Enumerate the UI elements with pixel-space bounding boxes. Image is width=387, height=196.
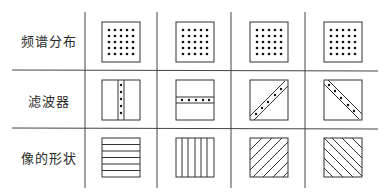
row-divider-1 (12, 70, 378, 71)
filter-cells (102, 79, 363, 121)
spectrum-dots (108, 29, 357, 56)
spatial-filtering-table: 频谱分布 滤波器 像的形状 (0, 0, 387, 196)
row-divider-2 (12, 128, 378, 129)
filter-box-4 (324, 80, 362, 120)
table-graphics (0, 0, 387, 196)
filter-dots (120, 84, 355, 115)
image-shape-cells (102, 138, 362, 177)
spectrum-cells (102, 22, 362, 62)
